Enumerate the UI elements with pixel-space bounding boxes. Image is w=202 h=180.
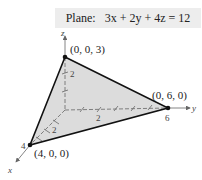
point-label-x: (4, 0, 0) <box>34 147 69 160</box>
point-label-y: (0, 6, 0) <box>152 89 187 102</box>
tick-label-y-2: 2 <box>96 113 101 123</box>
z-axis-label: z <box>60 28 65 38</box>
vertex-y <box>166 106 171 111</box>
x-axis-label: x <box>7 165 12 175</box>
y-axis-label: y <box>191 103 196 113</box>
tick-label-z-2: 2 <box>70 69 75 79</box>
tick-label-y-6: 6 <box>165 113 170 123</box>
vertex-x <box>28 143 33 148</box>
tick-label-x-2: 2 <box>52 125 57 135</box>
point-label-z: (0, 0, 3) <box>70 43 105 56</box>
tick-label-x-4: 4 <box>21 141 26 151</box>
plane-diagram: z y x (0, 0, 3) (0, 6, 0) (4, 0, 0) 2 2 … <box>0 0 202 180</box>
vertex-z <box>63 55 68 60</box>
plane-triangle <box>30 57 168 145</box>
